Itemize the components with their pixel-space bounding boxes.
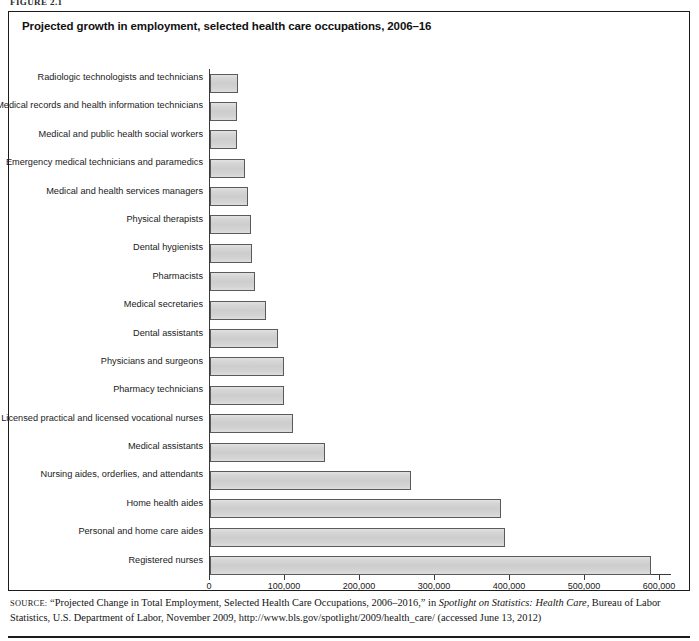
bar-category-label: Dental assistants	[0, 327, 203, 340]
x-tick-mark	[359, 575, 360, 580]
bar-row: Home health aides	[210, 495, 659, 523]
bar-row: Medical and health services managers	[210, 183, 659, 211]
x-tick-label: 600,000	[643, 581, 676, 591]
bar-category-label: Medical records and health information t…	[0, 99, 203, 112]
bar-row: Personal and home care aides	[210, 523, 659, 551]
bar-row: Dental assistants	[210, 325, 659, 353]
bar-category-label: Radiologic technologists and technicians	[0, 71, 203, 84]
x-tick-label: 0	[206, 581, 211, 591]
x-tick-mark	[659, 575, 660, 580]
bar	[210, 329, 278, 348]
bar	[210, 102, 237, 121]
bar	[210, 74, 238, 93]
bar	[210, 272, 255, 291]
chart-title: Projected growth in employment, selected…	[22, 20, 431, 32]
bar-category-label: Physical therapists	[0, 213, 203, 226]
bar-row: Pharmacists	[210, 268, 659, 296]
bar-category-label: Home health aides	[0, 497, 203, 510]
bar	[210, 471, 411, 490]
bar	[210, 244, 252, 263]
bar-row: Physicians and surgeons	[210, 353, 659, 381]
bar	[210, 187, 248, 206]
bar-category-label: Nursing aides, orderlies, and attendants	[0, 468, 203, 481]
figure-number-label: FIGURE 2.1	[10, 0, 63, 6]
bar-row: Medical secretaries	[210, 296, 659, 324]
x-tick-mark	[434, 575, 435, 580]
bar-category-label: Licensed practical and licensed vocation…	[0, 412, 203, 425]
bottom-divider	[8, 636, 690, 638]
bar-category-label: Emergency medical technicians and parame…	[0, 156, 203, 169]
bar-category-label: Pharmacy technicians	[0, 383, 203, 396]
bar-row: Licensed practical and licensed vocation…	[210, 410, 659, 438]
source-publication-title: Spotlight on Statistics: Health Care	[439, 597, 587, 608]
source-label: SOURCE:	[10, 599, 47, 608]
x-tick-label: 300,000	[418, 581, 451, 591]
bar-row: Nursing aides, orderlies, and attendants	[210, 466, 659, 494]
bar	[210, 130, 237, 149]
plot-area: Radiologic technologists and technicians…	[209, 69, 659, 574]
x-tick-mark	[584, 575, 585, 580]
bar	[210, 528, 505, 547]
x-tick-mark	[284, 575, 285, 580]
chart-container: Projected growth in employment, selected…	[8, 11, 690, 591]
bar-category-label: Medical secretaries	[0, 298, 203, 311]
bar-category-label: Dental hygienists	[0, 241, 203, 254]
bar-category-label: Medical and health services managers	[0, 185, 203, 198]
bar	[210, 301, 266, 320]
x-tick-label: 200,000	[343, 581, 376, 591]
bar-category-label: Physicians and surgeons	[0, 355, 203, 368]
bar	[210, 357, 284, 376]
bar	[210, 215, 251, 234]
bar-category-label: Registered nurses	[0, 554, 203, 567]
bar-row: Medical and public health social workers	[210, 126, 659, 154]
source-note: SOURCE: “Projected Change in Total Emplo…	[10, 596, 686, 626]
bar	[210, 443, 325, 462]
bar	[210, 414, 293, 433]
figure-page: FIGURE 2.1 Projected growth in employmen…	[0, 0, 699, 641]
x-tick-mark	[509, 575, 510, 580]
bar-rows: Radiologic technologists and technicians…	[210, 69, 659, 572]
bar-row: Emergency medical technicians and parame…	[210, 154, 659, 182]
x-tick-label: 100,000	[268, 581, 301, 591]
bar-row: Medical records and health information t…	[210, 97, 659, 125]
bar-row: Dental hygienists	[210, 239, 659, 267]
x-tick-mark	[209, 575, 210, 580]
bar	[210, 556, 651, 575]
x-tick-label: 500,000	[568, 581, 601, 591]
bar-category-label: Pharmacists	[0, 270, 203, 283]
bar	[210, 499, 501, 518]
source-text-a: “Projected Change in Total Employment, S…	[47, 597, 438, 608]
bar-category-label: Medical and public health social workers	[0, 128, 203, 141]
bar-category-label: Medical assistants	[0, 440, 203, 453]
bar-row: Radiologic technologists and technicians	[210, 69, 659, 97]
bar-row: Pharmacy technicians	[210, 381, 659, 409]
bar-category-label: Personal and home care aides	[0, 525, 203, 538]
bar	[210, 159, 245, 178]
bar-row: Medical assistants	[210, 438, 659, 466]
x-tick-label: 400,000	[493, 581, 526, 591]
bar-row: Physical therapists	[210, 211, 659, 239]
bar	[210, 386, 284, 405]
